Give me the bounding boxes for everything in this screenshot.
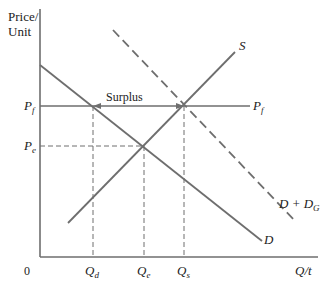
demand-gov-curve	[113, 30, 296, 222]
y-axis-label-line2: Unit	[8, 24, 32, 39]
origin-label: 0	[24, 264, 30, 278]
demand-curve	[40, 65, 262, 241]
supply-label: S	[239, 38, 246, 53]
supply-demand-diagram: Price/ Unit Pf Pe Pf Surplus S D D + DG …	[0, 0, 330, 283]
x-axis-label: Q/t	[295, 263, 312, 278]
surplus-label: Surplus	[106, 90, 143, 104]
demand-gov-label: D + DG	[278, 196, 320, 213]
qd-label: Qd	[85, 263, 99, 280]
supply-curve	[68, 52, 235, 223]
demand-label: D	[263, 232, 274, 247]
pf-label: Pf	[23, 98, 36, 115]
pe-label: Pe	[23, 138, 36, 155]
qe-label: Qe	[137, 263, 150, 280]
y-axis-label-line1: Price/	[8, 9, 39, 24]
qs-label: Qs	[177, 263, 190, 280]
pf-right-label: Pf	[252, 98, 265, 115]
